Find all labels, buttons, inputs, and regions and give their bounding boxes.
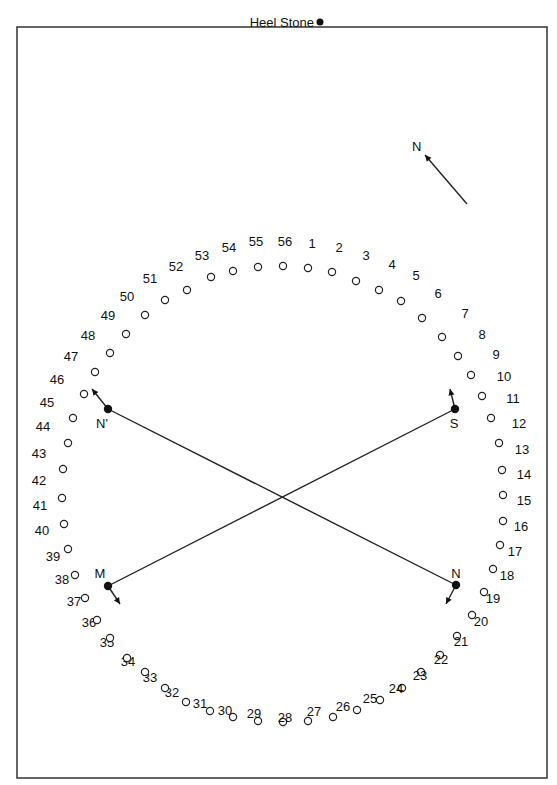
aubrey-hole-label: 52 [169, 259, 183, 274]
aubrey-hole-40 [64, 545, 71, 552]
aubrey-hole-12 [495, 439, 502, 446]
aubrey-hole-34 [141, 668, 148, 675]
aubrey-hole-label: 37 [67, 594, 81, 609]
aubrey-hole-56 [279, 262, 286, 269]
aubrey-hole-label: 56 [278, 234, 292, 249]
aubrey-hole-46 [80, 390, 87, 397]
aubrey-hole-label: 43 [32, 446, 46, 461]
aubrey-hole-label: 17 [508, 544, 522, 559]
station-stone-label: N' [96, 416, 108, 431]
aubrey-hole-label: 12 [512, 416, 526, 431]
aubrey-hole-label: 25 [363, 691, 377, 706]
station-stone-label: M [95, 566, 106, 581]
aubrey-hole-label: 7 [461, 306, 468, 321]
aubrey-hole-45 [69, 414, 76, 421]
diagram-frame [17, 27, 547, 778]
aubrey-hole-8 [454, 352, 461, 359]
aubrey-hole-16 [496, 541, 503, 548]
aubrey-hole-label: 8 [478, 327, 485, 342]
aubrey-hole-label: 51 [143, 271, 157, 286]
station-stone-marker [104, 582, 112, 590]
aubrey-hole-17 [489, 565, 496, 572]
aubrey-hole-label: 55 [249, 234, 263, 249]
aubrey-hole-label: 42 [32, 473, 46, 488]
aubrey-hole-label: 5 [412, 268, 419, 283]
aubrey-hole-15 [499, 517, 506, 524]
aubrey-hole-24 [376, 696, 383, 703]
aubrey-hole-label: 23 [413, 668, 427, 683]
aubrey-hole-49 [122, 330, 129, 337]
aubrey-hole-label: 27 [307, 704, 321, 719]
aubrey-hole-label: 21 [454, 634, 468, 649]
aubrey-hole-label: 28 [278, 710, 292, 725]
aubrey-hole-label: 2 [335, 240, 342, 255]
aubrey-hole-label: 31 [193, 696, 207, 711]
aubrey-hole-label: 45 [40, 395, 54, 410]
aubrey-hole-label: 19 [486, 591, 500, 606]
heel-stone: Heel Stone [250, 15, 324, 30]
aubrey-hole-35 [123, 654, 130, 661]
aubrey-hole-32 [182, 698, 189, 705]
aubrey-hole-43 [59, 465, 66, 472]
aubrey-hole-13 [498, 466, 505, 473]
aubrey-hole-label: 3 [362, 248, 369, 263]
aubrey-hole-label: 54 [222, 240, 236, 255]
aubrey-hole-1 [304, 264, 311, 271]
aubrey-hole-label: 11 [506, 391, 520, 406]
aubrey-hole-47 [91, 368, 98, 375]
aubrey-hole-label: 18 [500, 568, 514, 583]
aubrey-hole-label: 16 [514, 519, 528, 534]
aubrey-hole-label: 47 [64, 349, 78, 364]
aubrey-hole-52 [183, 286, 190, 293]
aubrey-hole-label: 4 [388, 257, 395, 272]
aubrey-hole-label: 41 [33, 498, 47, 513]
station-stone-label: S [450, 416, 459, 431]
aubrey-hole-3 [352, 277, 359, 284]
aubrey-hole-37 [93, 616, 100, 623]
aubrey-hole-2 [328, 268, 335, 275]
aubrey-hole-4 [375, 286, 382, 293]
aubrey-hole-label: 26 [336, 699, 350, 714]
aubrey-hole-label: 38 [55, 572, 69, 587]
aubrey-hole-label: 1 [308, 236, 315, 251]
aubrey-hole-33 [161, 684, 168, 691]
aubrey-hole-54 [229, 267, 236, 274]
aubrey-hole-25 [353, 706, 360, 713]
aubrey-hole-53 [207, 273, 214, 280]
station-stone-marker [452, 581, 460, 589]
aubrey-hole-26 [329, 713, 336, 720]
aubrey-hole-42 [58, 494, 65, 501]
aubrey-hole-label: 53 [195, 248, 209, 263]
station-stone-marker [451, 405, 459, 413]
heel-stone-marker [317, 19, 324, 26]
aubrey-hole-5 [397, 297, 404, 304]
aubrey-hole-31 [206, 707, 213, 714]
aubrey-hole-6 [418, 314, 425, 321]
aubrey-hole-label: 44 [36, 419, 50, 434]
aubrey-hole-label: 13 [515, 442, 529, 457]
aubrey-hole-51 [161, 296, 168, 303]
aubrey-hole-41 [60, 520, 67, 527]
station-stone-label: N [451, 566, 460, 581]
aubrey-hole-label: 9 [492, 347, 499, 362]
aubrey-hole-label: 29 [247, 706, 261, 721]
aubrey-hole-39 [71, 571, 78, 578]
aubrey-hole-50 [141, 311, 148, 318]
aubrey-hole-44 [64, 439, 71, 446]
aubrey-hole-36 [106, 634, 113, 641]
aubrey-hole-label: 6 [434, 286, 441, 301]
aubrey-hole-9 [467, 371, 474, 378]
aubrey-hole-10 [478, 392, 485, 399]
aubrey-hole-48 [106, 349, 113, 356]
heel-stone-label: Heel Stone [250, 15, 314, 30]
aubrey-hole-label: 49 [101, 308, 115, 323]
aubrey-hole-label: 50 [120, 289, 134, 304]
aubrey-hole-55 [254, 263, 261, 270]
aubrey-hole-label: 48 [81, 328, 95, 343]
aubrey-hole-38 [81, 594, 88, 601]
north-arrow-label: N [412, 139, 421, 154]
aubrey-hole-14 [499, 491, 506, 498]
aubrey-hole-label: 15 [517, 493, 531, 508]
station-stone-marker [104, 405, 112, 413]
aubrey-hole-label: 46 [50, 372, 64, 387]
